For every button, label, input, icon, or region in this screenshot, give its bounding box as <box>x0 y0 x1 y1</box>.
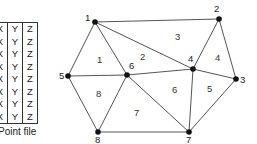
node-3-point-icon <box>233 76 239 82</box>
edge-4-3 <box>193 69 236 79</box>
node-2-point-icon <box>216 16 222 22</box>
node-4-point-icon <box>190 66 196 72</box>
triangle-label-3: 3 <box>175 31 180 42</box>
triangle-label-5: 5 <box>207 83 212 94</box>
edge-3-7 <box>189 79 236 132</box>
edge-5-6 <box>68 75 127 76</box>
node-label-6: 6 <box>129 60 134 71</box>
triangle-label-8: 8 <box>96 88 101 99</box>
tin-diagram: 12345678 12345678 <box>0 0 257 144</box>
edge-6-7 <box>127 75 189 132</box>
edge-4-6 <box>127 69 193 75</box>
node-5-point-icon <box>65 73 71 79</box>
triangle-label-1: 1 <box>97 54 102 65</box>
triangle-label-6: 6 <box>172 84 177 95</box>
node-label-7: 7 <box>186 134 191 144</box>
edge-1-2 <box>95 19 219 22</box>
edge-6-8 <box>98 75 127 132</box>
triangle-label-7: 7 <box>134 107 139 118</box>
node-label-1: 1 <box>85 12 90 23</box>
edge-2-3 <box>219 19 236 79</box>
node-label-2: 2 <box>214 3 219 14</box>
triangle-label-2: 2 <box>140 51 145 62</box>
triangle-label-4: 4 <box>215 52 220 63</box>
edge-1-5 <box>68 22 95 76</box>
node-label-3: 3 <box>240 74 245 85</box>
tin-edges <box>68 19 236 132</box>
edge-5-8 <box>68 76 98 132</box>
node-6-point-icon <box>124 72 130 78</box>
edge-4-7 <box>189 69 193 132</box>
node-label-8: 8 <box>95 134 100 144</box>
tin-nodes: 12345678 <box>59 3 245 144</box>
node-label-4: 4 <box>188 53 193 64</box>
node-label-5: 5 <box>59 70 64 81</box>
node-1-point-icon <box>92 19 98 25</box>
triangle-labels: 12345678 <box>96 31 220 118</box>
